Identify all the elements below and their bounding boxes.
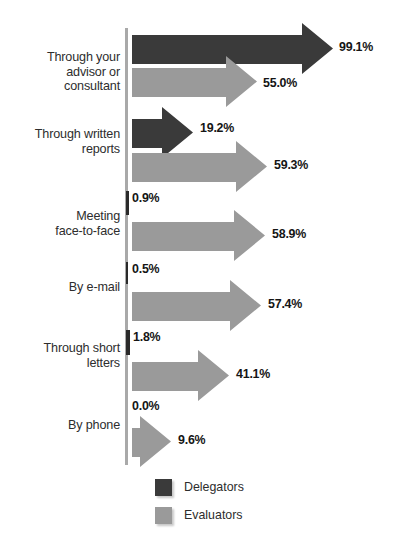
- legend-item-evaluators: Evaluators: [155, 501, 244, 529]
- category-label-line: face-to-face: [8, 224, 120, 239]
- value-label-evaluators-short-letters: 41.1%: [236, 367, 270, 381]
- value-label-delegators-face-to-face: 0.9%: [132, 191, 159, 205]
- category-label-email: By e-mail: [8, 280, 120, 295]
- bar-evaluators-written-reports: [132, 141, 267, 192]
- legend-label-delegators: Delegators: [184, 480, 244, 494]
- arrow-pair-written-reports: [126, 113, 356, 189]
- bar-delegators-short-letters: [126, 330, 130, 355]
- value-label-evaluators-email: 57.4%: [268, 297, 302, 311]
- value-label-delegators-short-letters: 1.8%: [133, 330, 160, 344]
- bars-advisor: 99.1% 55.0%: [126, 28, 356, 104]
- legend-item-delegators: Delegators: [155, 473, 244, 501]
- arrow-pair-face-to-face: [126, 188, 356, 264]
- category-label-line: Through written: [8, 127, 120, 142]
- arrow-pair-phone: [126, 396, 356, 472]
- category-label-line: By phone: [8, 418, 120, 433]
- arrow-pair-short-letters: [126, 325, 356, 401]
- category-label-line: Through short: [8, 341, 120, 356]
- bar-delegators-written-reports: [132, 107, 193, 158]
- bar-chart: Through your advisor or consultant 99.1%…: [0, 0, 406, 557]
- bars-email: 0.5% 57.4%: [126, 258, 356, 334]
- bar-evaluators-face-to-face: [132, 210, 265, 261]
- value-label-delegators-phone: 0.0%: [132, 399, 159, 413]
- arrow-pair-email: [126, 258, 356, 334]
- category-label-phone: By phone: [8, 418, 120, 433]
- value-label-delegators-email: 0.5%: [132, 262, 159, 276]
- category-label-advisor: Through your advisor or consultant: [8, 50, 120, 94]
- bar-delegators-email: [126, 262, 128, 284]
- bars-short-letters: 1.8% 41.1%: [126, 325, 356, 401]
- legend-swatch-evaluators: [155, 507, 172, 524]
- value-label-evaluators-face-to-face: 58.9%: [272, 227, 306, 241]
- bar-evaluators-short-letters: [132, 350, 229, 401]
- category-label-short-letters: Through short letters: [8, 341, 120, 370]
- value-label-delegators-advisor: 99.1%: [339, 40, 373, 54]
- category-label-line: Meeting: [8, 209, 120, 224]
- value-label-evaluators-written-reports: 59.3%: [274, 158, 308, 172]
- arrow-pair-advisor: [126, 28, 356, 104]
- category-label-line: advisor or: [8, 65, 120, 80]
- chart-legend: Delegators Evaluators: [155, 473, 244, 529]
- bar-delegators-face-to-face: [126, 191, 129, 215]
- value-label-evaluators-phone: 9.6%: [178, 433, 205, 447]
- category-label-line: consultant: [8, 79, 120, 94]
- category-label-face-to-face: Meeting face-to-face: [8, 209, 120, 238]
- category-label-line: By e-mail: [8, 280, 120, 295]
- category-label-written-reports: Through written reports: [8, 127, 120, 156]
- bar-evaluators-phone: [132, 416, 171, 467]
- legend-swatch-delegators: [155, 479, 172, 496]
- category-label-line: reports: [8, 142, 120, 157]
- bars-face-to-face: 0.9% 58.9%: [126, 188, 356, 264]
- category-label-line: Through your: [8, 50, 120, 65]
- bar-evaluators-email: [132, 280, 261, 331]
- value-label-delegators-written-reports: 19.2%: [200, 121, 234, 135]
- bars-written-reports: 19.2% 59.3%: [126, 113, 356, 189]
- legend-label-evaluators: Evaluators: [184, 508, 243, 522]
- category-label-line: letters: [8, 356, 120, 371]
- bars-phone: 0.0% 9.6%: [126, 396, 356, 472]
- value-label-evaluators-advisor: 55.0%: [263, 76, 297, 90]
